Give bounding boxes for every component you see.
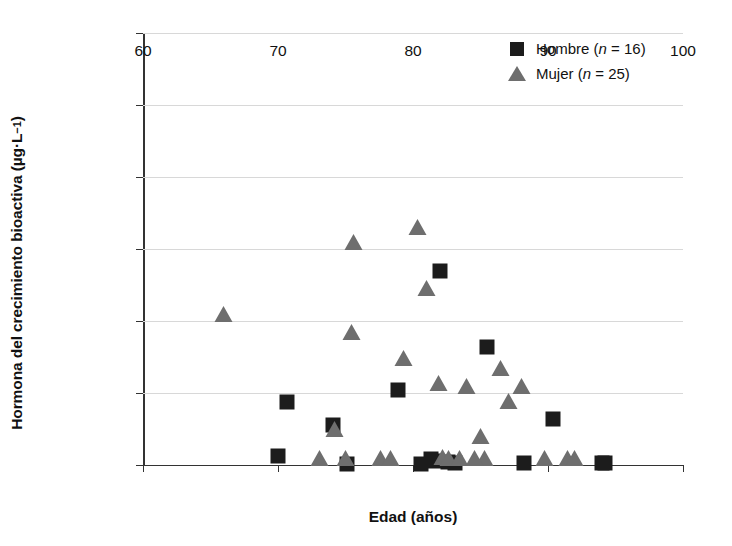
data-point-hombre <box>546 411 561 426</box>
x-axis-tick <box>278 465 279 472</box>
data-point-mujer <box>382 450 400 466</box>
x-axis-tick-label: 60 <box>113 42 173 60</box>
legend-label-hombre: Hombre (n = 16) <box>536 40 646 57</box>
legend-n-mujer: 25 <box>608 65 625 82</box>
y-axis-tick <box>136 321 143 322</box>
triangle-marker-icon <box>504 66 530 81</box>
data-point-mujer <box>536 450 554 466</box>
gridline <box>143 33 683 34</box>
data-point-mujer <box>429 375 447 391</box>
legend-item-mujer: Mujer (n = 25) <box>504 61 646 86</box>
data-point-mujer <box>471 428 489 444</box>
x-axis-title: Edad (años) <box>143 508 683 526</box>
square-marker-icon <box>504 42 530 56</box>
y-axis-tick <box>136 393 143 394</box>
data-point-mujer <box>336 450 354 466</box>
legend: Hombre (n = 16) Mujer (n = 25) <box>504 36 646 86</box>
y-axis-tick <box>136 33 143 34</box>
gridline <box>143 105 683 106</box>
data-point-mujer <box>491 360 509 376</box>
data-point-hombre <box>391 383 406 398</box>
y-axis-tick <box>136 177 143 178</box>
y-axis-title-superscript: −1 <box>11 121 23 133</box>
data-point-mujer <box>466 450 484 466</box>
data-point-hombre <box>597 456 612 471</box>
data-point-mujer <box>310 450 328 466</box>
data-point-hombre <box>280 394 295 409</box>
data-point-mujer <box>499 393 517 409</box>
data-point-hombre <box>480 339 495 354</box>
data-point-mujer <box>513 378 531 394</box>
data-point-hombre <box>516 455 531 470</box>
data-point-mujer <box>343 324 361 340</box>
x-axis-tick <box>143 465 144 472</box>
y-axis-tick <box>136 249 143 250</box>
data-point-hombre <box>271 449 286 464</box>
x-axis-tick-label: 100 <box>653 42 713 60</box>
plot-area: 05 00010 00015 00020 00025 00030 0006070… <box>143 33 683 465</box>
legend-n-hombre: 16 <box>624 40 641 57</box>
y-axis-title: Hormona del crecimiento bioactiva (µg·L−… <box>0 0 34 546</box>
gridline <box>143 393 683 394</box>
y-axis-tick <box>136 105 143 106</box>
data-point-hombre <box>433 263 448 278</box>
data-point-mujer <box>566 450 584 466</box>
x-axis-tick-label: 70 <box>248 42 308 60</box>
gridline <box>143 249 683 250</box>
y-axis-title-main: Hormona del crecimiento bioactiva (µg·L <box>8 134 26 430</box>
data-point-mujer <box>394 350 412 366</box>
x-axis-tick-label: 80 <box>383 42 443 60</box>
legend-item-hombre: Hombre (n = 16) <box>504 36 646 61</box>
x-axis-tick <box>548 465 549 472</box>
y-axis-title-tail: ) <box>8 116 26 121</box>
data-point-mujer <box>325 421 343 437</box>
data-point-mujer <box>344 234 362 250</box>
gridline <box>143 177 683 178</box>
legend-label-mujer: Mujer (n = 25) <box>536 65 630 82</box>
y-axis-tick <box>136 465 143 466</box>
data-point-mujer <box>215 306 233 322</box>
data-point-mujer <box>417 280 435 296</box>
x-axis-tick <box>683 465 684 472</box>
data-point-mujer <box>458 378 476 394</box>
scatter-plot-figure: Hormona del crecimiento bioactiva (µg·L−… <box>0 0 732 546</box>
data-point-mujer <box>409 219 427 235</box>
